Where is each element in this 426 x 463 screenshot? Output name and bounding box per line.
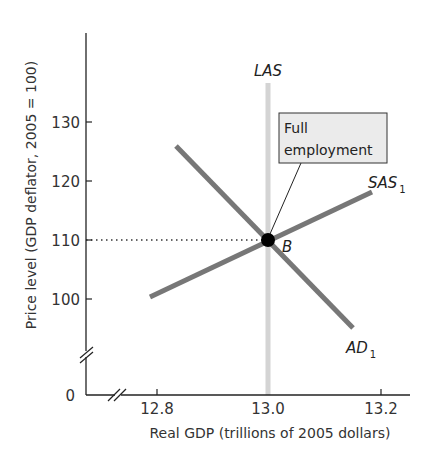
x-tick-label-13-0: 13.0 <box>251 400 284 418</box>
x-tick-label-13-2: 13.2 <box>364 400 397 418</box>
y-axis-title: Price level (GDP deflator, 2005 = 100) <box>23 61 39 329</box>
y-tick-label-100: 100 <box>51 291 80 309</box>
ad1-label: AD1 <box>345 339 376 360</box>
sas1-label-main: SAS <box>368 174 398 192</box>
ad1-label-subscript: 1 <box>370 349 376 360</box>
origin-label: 0 <box>65 387 75 405</box>
x-axis-title: Real GDP (trillions of 2005 dollars) <box>150 425 391 441</box>
full-employment-line2: employment <box>284 142 373 158</box>
point-b-label: B <box>282 238 292 256</box>
ad1-label-main: AD <box>345 339 368 357</box>
chart: Full employment B 130 120 110 100 0 12.8… <box>0 0 426 463</box>
y-tick-label-120: 120 <box>51 173 80 191</box>
x-tick-label-12-8: 12.8 <box>140 400 173 418</box>
y-tick-label-110: 110 <box>51 232 80 250</box>
annotation-leader-line <box>270 163 301 234</box>
las-label: LAS <box>254 62 283 80</box>
sas1-label: SAS1 <box>368 174 406 195</box>
sas1-curve <box>150 192 372 297</box>
y-tick-label-130: 130 <box>51 114 80 132</box>
sas1-label-subscript: 1 <box>399 184 405 195</box>
full-employment-line1: Full <box>284 120 308 136</box>
equilibrium-point-b <box>261 233 275 247</box>
